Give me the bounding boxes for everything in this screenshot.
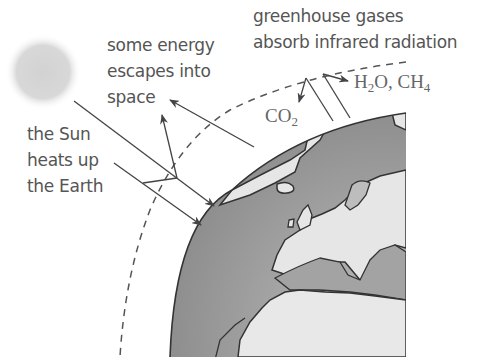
h-symbol: H [354, 71, 368, 92]
co2-base: CO [265, 105, 291, 126]
o-ch-symbol: O, CH [374, 71, 424, 92]
label-sun-heats-earth: the Sun heats up the Earth [27, 121, 103, 199]
label-line: the Earth [27, 173, 103, 199]
ch4-subscript: 4 [424, 80, 431, 95]
label-line: some energy [107, 32, 215, 58]
label-h2o-ch4: H2O, CH4 [354, 71, 430, 96]
incoming-radiation-arrow-2 [114, 163, 201, 225]
label-line: greenhouse gases [253, 3, 457, 29]
co2-subscript: 2 [291, 114, 298, 129]
reflected-radiation-arrow-2 [143, 178, 177, 183]
label-line: escapes into [107, 58, 215, 84]
landmass-ireland [288, 219, 294, 227]
label-line: absorb infrared radiation [253, 29, 457, 55]
landmass-iceland [277, 182, 294, 193]
label-line: the Sun [27, 121, 103, 147]
earth-globe [170, 113, 406, 360]
sun-icon [5, 34, 81, 110]
label-energy-escapes: some energy escapes into space [107, 32, 215, 110]
label-line: space [107, 84, 215, 110]
greenhouse-diagram: some energy escapes into space the Sun h… [0, 0, 480, 364]
label-greenhouse-gases: greenhouse gases absorb infrared radiati… [253, 3, 457, 55]
label-line: heats up [27, 147, 103, 173]
label-co2: CO2 [265, 105, 298, 130]
